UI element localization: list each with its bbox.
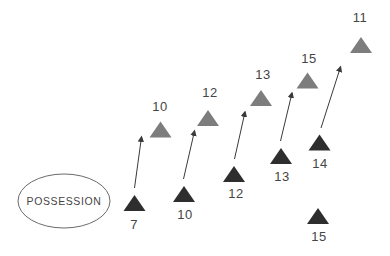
pair-4-bottom-triangle (270, 148, 292, 164)
pair-5: 14 11 (309, 10, 373, 171)
pair-4-top-triangle (297, 73, 319, 89)
pair-2-top-triangle (197, 110, 219, 126)
pair-4-bottom-label: 13 (274, 169, 289, 184)
isolated-node: 15 (307, 208, 329, 244)
pair-2: 10 12 (173, 85, 219, 222)
pair-5-top-triangle (350, 37, 372, 53)
pair-3-arrow (235, 112, 246, 159)
pair-1-bottom-triangle (124, 195, 146, 211)
possession-node: POSSESSION (18, 174, 110, 228)
pair-1-arrow (135, 137, 142, 188)
pair-2-top-label: 12 (202, 85, 217, 100)
pair-1: 7 10 (124, 99, 172, 232)
pair-2-bottom-triangle (173, 186, 195, 202)
pair-5-top-label: 11 (353, 10, 368, 25)
pair-2-bottom-label: 10 (177, 207, 192, 222)
pair-3: 12 13 (223, 67, 272, 201)
isolated-triangle (307, 208, 329, 224)
pair-3-bottom-label: 12 (228, 186, 243, 201)
possession-label: POSSESSION (27, 195, 102, 207)
pair-4-top-label: 15 (301, 51, 316, 66)
pair-3-bottom-triangle (223, 166, 245, 182)
diagram-canvas: POSSESSION 7 10 10 12 12 13 (0, 0, 390, 256)
pair-2-arrow (184, 131, 195, 179)
pair-4: 13 15 (270, 51, 319, 184)
isolated-label: 15 (311, 229, 326, 244)
pair-5-arrow (321, 67, 341, 128)
pair-1-top-label: 10 (152, 99, 167, 114)
pair-3-top-triangle (250, 90, 272, 106)
pair-1-top-triangle (150, 122, 172, 138)
pair-5-bottom-triangle (309, 135, 331, 151)
possession-diagram: POSSESSION 7 10 10 12 12 13 (0, 0, 390, 256)
pair-5-bottom-label: 14 (312, 156, 327, 171)
pair-3-top-label: 13 (255, 67, 270, 82)
pair-4-arrow (281, 93, 293, 141)
pair-1-bottom-label: 7 (130, 217, 138, 232)
